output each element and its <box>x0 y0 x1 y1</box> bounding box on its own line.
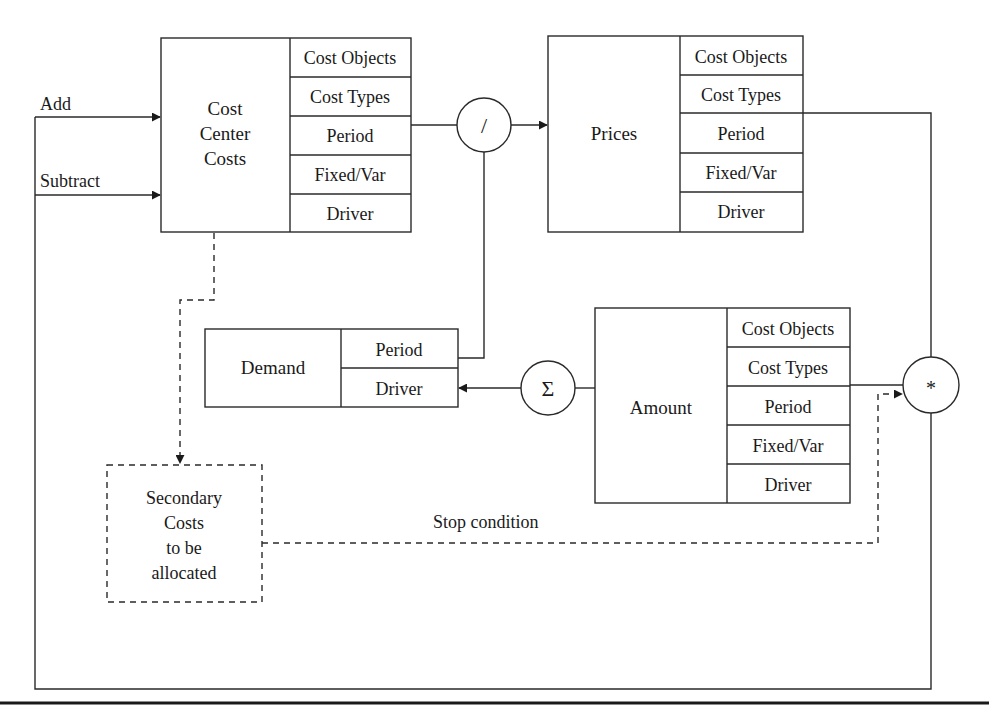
cost-center-costs-box: Cost Center Costs Cost Objects Cost Type… <box>161 38 411 232</box>
cost-center-dim-fixed-var: Fixed/Var <box>315 165 386 185</box>
divide-icon: / <box>481 113 488 138</box>
stop-condition-label: Stop condition <box>433 512 539 532</box>
multiply-icon: * <box>926 377 936 399</box>
sigma-icon: Σ <box>542 376 555 401</box>
prices-dim-cost-types: Cost Types <box>701 85 781 105</box>
secondary-title-line3: to be <box>166 538 202 558</box>
amount-title: Amount <box>630 397 693 418</box>
cost-center-dim-period: Period <box>327 126 374 146</box>
demand-dim-driver: Driver <box>376 379 423 399</box>
cost-center-dim-cost-objects: Cost Objects <box>304 48 397 68</box>
demand-box: Demand Period Driver <box>205 329 458 407</box>
prices-dim-fixed-var: Fixed/Var <box>706 163 777 183</box>
cost-allocation-diagram: Add Subtract Cost Center Costs Cost Obje… <box>0 0 989 717</box>
demand-to-divide-line <box>458 152 484 358</box>
prices-dim-driver: Driver <box>718 202 765 222</box>
amount-box: Amount Cost Objects Cost Types Period Fi… <box>595 308 850 503</box>
prices-box: Prices Cost Objects Cost Types Period Fi… <box>548 36 803 232</box>
secondary-title-line1: Secondary <box>146 488 222 508</box>
amount-dim-driver: Driver <box>765 475 812 495</box>
amount-dim-fixed-var: Fixed/Var <box>753 436 824 456</box>
divide-operator: / <box>457 98 511 152</box>
prices-dim-period: Period <box>718 124 765 144</box>
secondary-title-line2: Costs <box>164 513 204 533</box>
amount-dim-period: Period <box>765 397 812 417</box>
cost-center-dim-driver: Driver <box>327 204 374 224</box>
amount-dim-cost-objects: Cost Objects <box>742 319 835 339</box>
demand-dim-period: Period <box>376 340 423 360</box>
prices-dim-cost-objects: Cost Objects <box>695 47 788 67</box>
cost-center-dim-cost-types: Cost Types <box>310 87 390 107</box>
sum-operator: Σ <box>521 361 575 415</box>
multiply-operator: * <box>903 357 959 413</box>
subtract-label: Subtract <box>40 171 100 191</box>
secondary-title-line4: allocated <box>152 563 217 583</box>
cost-center-title-line2: Center <box>200 123 251 144</box>
cost-center-title-line1: Cost <box>208 98 244 119</box>
secondary-costs-box: Secondary Costs to be allocated <box>107 465 262 602</box>
prices-title: Prices <box>591 123 637 144</box>
demand-title: Demand <box>241 357 306 378</box>
add-label: Add <box>40 94 71 114</box>
cost-center-title-line3: Costs <box>204 148 246 169</box>
amount-dim-cost-types: Cost Types <box>748 358 828 378</box>
